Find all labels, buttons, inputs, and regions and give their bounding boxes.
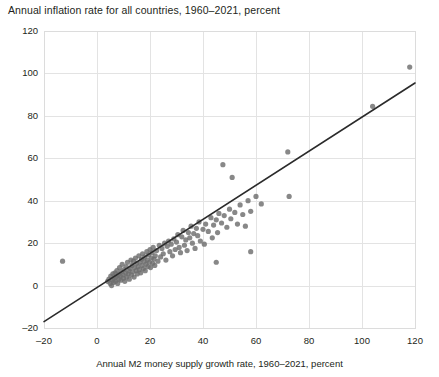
data-point xyxy=(219,220,224,225)
data-point xyxy=(230,175,235,180)
x-tick-label: 60 xyxy=(236,335,276,346)
data-point xyxy=(178,250,183,255)
data-point xyxy=(407,64,412,69)
data-point xyxy=(194,226,199,231)
data-point xyxy=(215,230,220,235)
y-tick-label: 60 xyxy=(4,152,38,163)
data-point xyxy=(187,235,192,240)
plot-frame xyxy=(45,32,416,329)
data-point xyxy=(174,239,179,244)
data-point xyxy=(202,242,207,247)
data-point xyxy=(153,253,158,258)
data-point xyxy=(206,229,211,234)
x-tick-label: 20 xyxy=(130,335,170,346)
y-tick-label: 100 xyxy=(4,67,38,78)
data-point xyxy=(163,258,168,263)
x-tick-label: –20 xyxy=(24,335,64,346)
data-points xyxy=(60,64,412,288)
data-point xyxy=(169,242,174,247)
data-point xyxy=(287,194,292,199)
data-point xyxy=(245,198,250,203)
x-axis-label: Annual M2 money supply growth rate, 1960… xyxy=(0,358,439,369)
data-point xyxy=(195,233,200,238)
data-point xyxy=(228,216,233,221)
data-point xyxy=(185,248,190,253)
data-point xyxy=(253,194,258,199)
data-point xyxy=(200,227,205,232)
x-tick-label: 0 xyxy=(77,335,117,346)
data-point xyxy=(216,211,221,216)
data-point xyxy=(203,221,208,226)
data-point xyxy=(285,149,290,154)
data-point xyxy=(232,210,237,215)
x-tick-label: 120 xyxy=(395,335,435,346)
data-point xyxy=(248,249,253,254)
data-point xyxy=(211,223,216,228)
data-point xyxy=(190,241,195,246)
data-point xyxy=(238,202,243,207)
data-point xyxy=(152,263,157,268)
data-point xyxy=(222,213,227,218)
data-point xyxy=(170,253,175,258)
data-point xyxy=(182,243,187,248)
y-tick-label: –20 xyxy=(4,322,38,333)
data-point xyxy=(161,251,166,256)
y-tick-label: 0 xyxy=(4,280,38,291)
x-tick-label: 100 xyxy=(342,335,382,346)
data-point xyxy=(177,245,182,250)
data-point xyxy=(192,246,197,251)
y-tick-label: 80 xyxy=(4,110,38,121)
data-point xyxy=(210,235,215,240)
data-point xyxy=(227,207,232,212)
data-point xyxy=(248,209,253,214)
x-tick-label: 80 xyxy=(289,335,329,346)
x-tick-label: 40 xyxy=(183,335,223,346)
data-point xyxy=(243,224,248,229)
y-tick-label: 40 xyxy=(4,195,38,206)
y-tick-label: 20 xyxy=(4,237,38,248)
data-point xyxy=(370,104,375,109)
grid-lines xyxy=(44,31,416,328)
data-point xyxy=(60,259,65,264)
data-point xyxy=(214,217,219,222)
y-tick-label: 120 xyxy=(4,25,38,36)
data-point xyxy=(259,201,264,206)
data-point xyxy=(235,221,240,226)
data-point xyxy=(224,225,229,230)
plot-canvas xyxy=(0,0,439,377)
scatter-chart: Annual inflation rate for all countries,… xyxy=(0,0,439,377)
data-point xyxy=(240,212,245,217)
data-point xyxy=(214,260,219,265)
data-point xyxy=(220,162,225,167)
